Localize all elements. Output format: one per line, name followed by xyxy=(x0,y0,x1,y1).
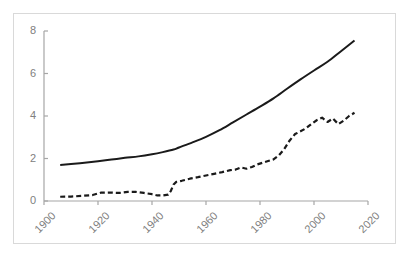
series-line-dashed-series xyxy=(60,113,354,197)
y-axis-tick-label: 4 xyxy=(22,110,36,121)
y-axis-tick-label: 0 xyxy=(22,195,36,206)
y-axis-tick-label: 6 xyxy=(22,68,36,79)
chart-figure: 02468 1900192019401960198020002020 xyxy=(0,0,411,261)
data-series-group xyxy=(60,41,354,197)
y-axis-tick-label: 8 xyxy=(22,25,36,36)
series-line-solid-series xyxy=(60,41,354,165)
y-axis-tick-label: 2 xyxy=(22,153,36,164)
x-axis-ticks xyxy=(44,201,368,205)
